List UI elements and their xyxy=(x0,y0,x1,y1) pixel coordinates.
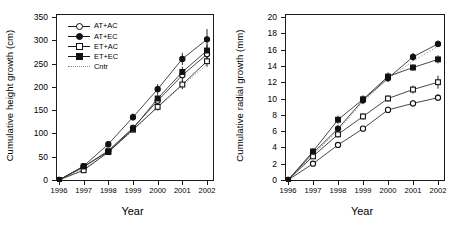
y-tick-label: 18 xyxy=(249,29,277,38)
data-point xyxy=(130,115,135,120)
y-tick-label: 100 xyxy=(20,129,48,138)
x-tick xyxy=(108,181,109,185)
data-point xyxy=(386,74,391,79)
y-tick-label: 4 xyxy=(249,143,277,152)
x-tick xyxy=(158,181,159,185)
data-point xyxy=(436,57,441,62)
y-tick-label: 0 xyxy=(20,176,48,185)
data-point xyxy=(435,41,440,46)
x-axis-title-left: Year xyxy=(18,205,247,217)
y-tick xyxy=(281,180,285,181)
data-point xyxy=(155,87,160,92)
x-axis-title-right: Year xyxy=(247,205,459,217)
y-tick-label: 200 xyxy=(20,83,48,92)
legend-key-open-circle-icon xyxy=(68,22,90,31)
y-axis-title-left: Cumulative height growth (cm) xyxy=(2,0,18,190)
x-tick xyxy=(182,181,183,185)
y-tick-label: 50 xyxy=(20,153,48,162)
y-tick-label: 250 xyxy=(20,60,48,69)
y-tick-label: 300 xyxy=(20,36,48,45)
y-tick-label: 350 xyxy=(20,13,48,22)
data-point xyxy=(155,104,160,109)
data-point xyxy=(410,54,415,59)
data-point xyxy=(155,96,160,101)
data-point xyxy=(180,56,185,61)
legend-key-filled-square-icon xyxy=(68,52,90,61)
legend-item-at-ac: AT+AC xyxy=(68,21,118,31)
data-point xyxy=(360,126,365,131)
x-tick xyxy=(207,181,208,185)
data-point xyxy=(311,149,316,154)
legend: AT+ACAT+ECET+ACET+ECCntr xyxy=(68,21,118,72)
legend-label: AT+AC xyxy=(94,22,117,29)
x-tick-label: 2002 xyxy=(190,187,224,195)
y-tick xyxy=(281,147,285,148)
y-tick xyxy=(281,99,285,100)
data-point xyxy=(131,126,136,131)
y-tick xyxy=(281,131,285,132)
y-tick xyxy=(281,82,285,83)
legend-item-at-ec: AT+EC xyxy=(68,31,118,41)
y-tick xyxy=(52,40,56,41)
legend-key-filled-circle-icon xyxy=(68,32,90,41)
legend-item-cntr: Cntr xyxy=(68,62,118,72)
panel-radial-growth: Cumulative radial growth (mm) 0246810121… xyxy=(229,0,459,227)
plot-area-radial-growth xyxy=(285,14,445,181)
data-point xyxy=(205,48,210,53)
data-point xyxy=(436,80,441,85)
legend-label: Cntr xyxy=(94,63,108,70)
data-point xyxy=(311,154,316,159)
data-point xyxy=(310,161,315,166)
data-point xyxy=(410,101,415,106)
data-point xyxy=(180,82,185,87)
y-tick xyxy=(52,87,56,88)
y-tick-label: 0 xyxy=(249,176,277,185)
data-point xyxy=(106,142,111,147)
data-point xyxy=(180,70,185,75)
y-tick xyxy=(281,33,285,34)
data-point xyxy=(336,132,341,137)
series-line-at-ac xyxy=(288,98,438,180)
x-tick xyxy=(313,181,314,185)
x-tick xyxy=(388,181,389,185)
figure-two-panel-growth: Cumulative height growth (cm) 0501001502… xyxy=(0,0,459,227)
y-tick xyxy=(281,66,285,67)
data-point xyxy=(435,95,440,100)
legend-label: ET+EC xyxy=(94,53,118,60)
y-tick xyxy=(52,133,56,134)
x-tick-label: 2002 xyxy=(421,187,455,195)
y-tick xyxy=(52,157,56,158)
x-tick xyxy=(413,181,414,185)
y-tick-label: 8 xyxy=(249,111,277,120)
y-tick xyxy=(281,115,285,116)
data-point xyxy=(386,96,391,101)
y-tick-label: 12 xyxy=(249,78,277,87)
y-tick xyxy=(52,64,56,65)
y-tick-label: 6 xyxy=(249,127,277,136)
data-point xyxy=(411,65,416,70)
data-point xyxy=(335,126,340,131)
data-point xyxy=(335,142,340,147)
legend-label: ET+AC xyxy=(94,43,118,50)
y-tick xyxy=(281,164,285,165)
data-point xyxy=(385,107,390,112)
x-tick xyxy=(288,181,289,185)
data-point xyxy=(361,97,366,102)
data-point xyxy=(205,59,210,64)
legend-key-open-square-icon xyxy=(68,42,90,51)
y-tick xyxy=(52,180,56,181)
x-tick xyxy=(59,181,60,185)
y-tick-label: 2 xyxy=(249,160,277,169)
x-tick xyxy=(363,181,364,185)
y-tick-label: 20 xyxy=(249,13,277,22)
y-axis-title-right: Cumulative radial growth (mm) xyxy=(231,0,247,190)
legend-item-et-ac: ET+AC xyxy=(68,41,118,51)
legend-item-et-ec: ET+EC xyxy=(68,52,118,62)
x-tick xyxy=(338,181,339,185)
y-tick xyxy=(281,50,285,51)
x-tick xyxy=(84,181,85,185)
x-tick xyxy=(133,181,134,185)
legend-key-none-icon xyxy=(68,62,90,71)
series-line-at-ec xyxy=(288,44,438,180)
y-tick xyxy=(52,17,56,18)
